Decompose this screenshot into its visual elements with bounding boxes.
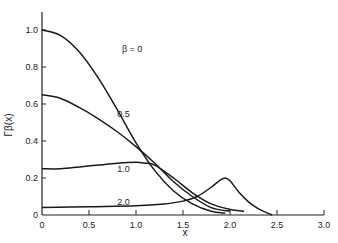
x-tick-label: 0.5	[83, 220, 96, 230]
chart: 00.51.01.52.02.53.000.20.40.60.81.0 β = …	[0, 0, 338, 243]
curves	[42, 30, 272, 215]
y-tick-label: 0.6	[25, 99, 38, 109]
y-tick-label: 0.4	[25, 136, 38, 146]
x-axis-label: x	[183, 227, 188, 238]
y-tick-label: 0.8	[25, 62, 38, 72]
curve-labels: β = 00.51.02.0	[117, 44, 142, 207]
y-tick-label: 1.0	[25, 25, 38, 35]
x-tick-label: 1.0	[130, 220, 143, 230]
x-tick-label: 2.5	[271, 220, 284, 230]
y-axis-label: Γβ(x)	[3, 114, 14, 137]
curve-label: 1.0	[117, 164, 130, 174]
curve-label: 2.0	[117, 197, 130, 207]
axes: 00.51.01.52.02.53.000.20.40.60.81.0	[25, 12, 330, 230]
x-tick-label: 3.0	[318, 220, 331, 230]
curve-2	[42, 162, 244, 211]
x-tick-label: 2.0	[224, 220, 237, 230]
curve-3	[42, 178, 272, 215]
x-tick-label: 0	[39, 220, 44, 230]
curve-label: β = 0	[122, 44, 142, 54]
curve-0	[42, 30, 225, 213]
y-tick-label: 0	[33, 210, 38, 220]
curve-label: 0.5	[117, 109, 130, 119]
y-tick-label: 0.2	[25, 173, 38, 183]
